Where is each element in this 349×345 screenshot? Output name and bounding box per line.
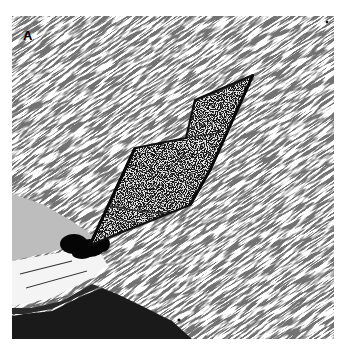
micrograph-image <box>12 16 334 339</box>
panel-label: A <box>23 28 32 43</box>
caption-fragment <box>10 0 340 4</box>
micrograph-panel <box>12 16 334 339</box>
